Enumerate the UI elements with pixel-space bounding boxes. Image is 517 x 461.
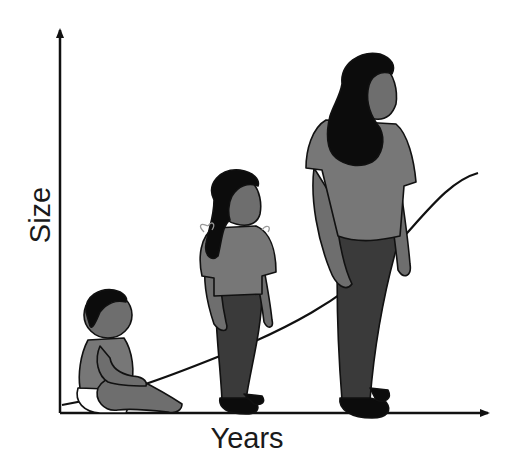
baby-figure	[77, 290, 182, 413]
teen-figure	[306, 53, 416, 418]
growth-diagram	[0, 0, 517, 461]
child-figure	[200, 170, 276, 414]
x-axis-label: Years	[210, 422, 283, 455]
y-axis-label: Size	[24, 187, 57, 243]
